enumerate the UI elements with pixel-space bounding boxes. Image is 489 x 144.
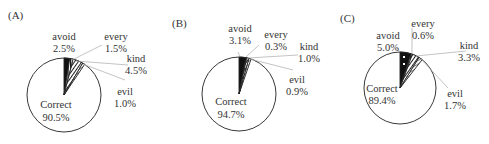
label-kind-name-a: kind	[127, 53, 146, 64]
label-evil-name-a: evil	[117, 86, 133, 97]
label-correct-name-b: Correct	[215, 96, 247, 107]
label-evil-name-c: evil	[447, 88, 463, 99]
panel-title-a: (A)	[8, 9, 24, 22]
label-evil-value-b: 0.9%	[286, 86, 308, 97]
label-every-value-b: 0.3%	[265, 41, 287, 52]
label-evil-name-b: evil	[289, 74, 305, 85]
label-every-name-a: every	[104, 31, 128, 42]
label-correct-value-b: 94.7%	[217, 109, 244, 120]
label-every-name-c: every	[411, 18, 435, 29]
panel-title-b: (B)	[172, 17, 187, 30]
label-every-name-b: every	[264, 29, 288, 40]
pie-chart-figure: (A) avoid 2.5% every 1.5% kind 4.5% evil…	[0, 0, 489, 144]
label-kind-name-c: kind	[460, 40, 479, 51]
label-correct-value-a: 90.5%	[42, 112, 69, 123]
label-kind-value-c: 3.3%	[458, 52, 480, 63]
avoid-dot-marker	[403, 63, 405, 65]
pie-panel-c: (C) avoid 5.0% every 0.6% kind 3.3% evil…	[340, 12, 480, 124]
label-avoid-value-b: 3.1%	[229, 35, 251, 46]
panel-title-c: (C)	[340, 12, 355, 25]
pie-panel-a: (A) avoid 2.5% every 1.5% kind 4.5% evil…	[8, 9, 147, 132]
label-correct-value-c: 89.4%	[368, 95, 395, 106]
label-correct-name-c: Correct	[366, 83, 398, 94]
label-avoid-name-b: avoid	[228, 23, 252, 34]
label-kind-value-a: 4.5%	[125, 65, 147, 76]
label-correct-name-a: Correct	[40, 99, 72, 110]
avoid-dot-marker	[403, 56, 405, 58]
label-every-value-a: 1.5%	[105, 43, 127, 54]
label-avoid-name-a: avoid	[52, 31, 76, 42]
label-avoid-name-c: avoid	[376, 30, 400, 41]
label-avoid-value-c: 5.0%	[377, 42, 399, 53]
label-avoid-value-a: 2.5%	[53, 43, 75, 54]
label-evil-value-c: 1.7%	[444, 100, 466, 111]
label-evil-value-a: 1.0%	[114, 98, 136, 109]
label-kind-value-b: 1.0%	[298, 53, 320, 64]
label-kind-name-b: kind	[300, 41, 319, 52]
pie-panel-b: (B) avoid 3.1% every 0.3% kind 1.0% evil…	[172, 17, 320, 131]
label-every-value-c: 0.6%	[412, 30, 434, 41]
